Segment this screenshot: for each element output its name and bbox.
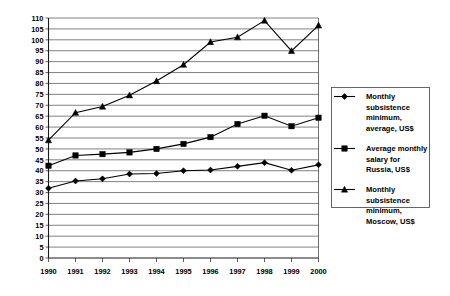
y-tick-label: 20 bbox=[35, 210, 43, 219]
x-tick-label: 1994 bbox=[148, 267, 165, 276]
legend-label-line: subsistence bbox=[366, 103, 410, 112]
y-tick-label: 55 bbox=[35, 134, 43, 143]
legend-label-line: Moscow, US$ bbox=[366, 217, 415, 226]
y-tick-label: 75 bbox=[35, 90, 43, 99]
legend-label-line: average, US$ bbox=[366, 124, 414, 133]
x-tick-label: 1993 bbox=[121, 267, 137, 276]
x-tick-label: 1991 bbox=[67, 267, 83, 276]
x-axis-tick-labels: 1990199119921993199419951996199719981999… bbox=[40, 267, 326, 276]
legend-label-line: minimum, bbox=[366, 113, 402, 122]
y-tick-label: 95 bbox=[35, 46, 43, 55]
y-tick-label: 40 bbox=[35, 166, 43, 175]
legend-label-line: Monthly bbox=[366, 92, 396, 101]
y-tick-label: 110 bbox=[32, 14, 44, 23]
square-marker bbox=[181, 141, 186, 146]
y-tick-label: 35 bbox=[35, 177, 43, 186]
line-chart: 0510152025303540455055606570758085909510… bbox=[0, 0, 450, 296]
square-marker bbox=[127, 150, 132, 155]
x-tick-label: 1998 bbox=[256, 267, 272, 276]
legend-label-line: Monthly bbox=[366, 185, 396, 194]
x-tick-label: 1990 bbox=[40, 267, 56, 276]
x-tick-label: 1996 bbox=[202, 267, 218, 276]
y-tick-label: 10 bbox=[35, 232, 43, 241]
square-marker bbox=[342, 146, 347, 151]
square-marker bbox=[208, 134, 213, 139]
x-tick-label: 1992 bbox=[94, 267, 110, 276]
y-tick-label: 105 bbox=[31, 25, 43, 34]
y-tick-label: 80 bbox=[35, 79, 43, 88]
y-tick-label: 100 bbox=[31, 36, 43, 45]
square-marker bbox=[73, 153, 78, 158]
y-tick-label: 50 bbox=[35, 145, 43, 154]
square-marker bbox=[46, 163, 51, 168]
y-tick-label: 65 bbox=[35, 112, 43, 121]
x-tick-label: 1995 bbox=[175, 267, 191, 276]
y-tick-label: 15 bbox=[35, 221, 43, 230]
y-tick-label: 60 bbox=[35, 123, 43, 132]
y-tick-label: 90 bbox=[35, 57, 43, 66]
y-tick-label: 70 bbox=[35, 101, 43, 110]
x-tick-label: 1997 bbox=[229, 267, 245, 276]
legend-label-line: minimum, bbox=[366, 206, 402, 215]
x-tick-label: 2000 bbox=[310, 267, 326, 276]
square-marker bbox=[262, 113, 267, 118]
legend-label-line: salary for bbox=[366, 155, 400, 164]
square-marker bbox=[289, 124, 294, 129]
y-tick-label: 30 bbox=[35, 188, 43, 197]
y-tick-label: 0 bbox=[39, 254, 43, 263]
chart-container: 0510152025303540455055606570758085909510… bbox=[0, 0, 450, 296]
y-tick-label: 85 bbox=[35, 68, 43, 77]
square-marker bbox=[235, 121, 240, 126]
legend-label-line: Average monthly bbox=[366, 144, 428, 153]
y-tick-label: 45 bbox=[35, 156, 43, 165]
square-marker bbox=[154, 146, 159, 151]
x-tick-label: 1999 bbox=[283, 267, 299, 276]
square-marker bbox=[316, 115, 321, 120]
y-tick-label: 5 bbox=[39, 243, 43, 252]
legend-label-line: Russia, US$ bbox=[366, 165, 411, 174]
y-tick-label: 25 bbox=[35, 199, 43, 208]
square-marker bbox=[100, 151, 105, 156]
legend-label-line: subsistence bbox=[366, 196, 410, 205]
